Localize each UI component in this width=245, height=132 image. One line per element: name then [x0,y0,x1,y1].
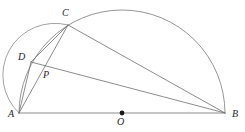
point-label-D: D [18,52,25,62]
geometry-figure: A B C D O P [0,0,245,132]
minor-arc-AC [3,23,68,113]
point-label-B: B [232,109,238,119]
point-label-A: A [8,109,14,119]
semicircle-arc-AB [19,10,225,113]
segment-DC [31,25,68,62]
segment-CB [68,25,225,113]
point-dot-O [120,111,125,116]
point-label-O: O [117,117,124,127]
geometry-canvas [0,0,245,132]
segment-DB [31,62,225,113]
segment-AD [19,62,31,113]
point-label-P: P [43,70,49,80]
point-label-C: C [62,8,69,18]
